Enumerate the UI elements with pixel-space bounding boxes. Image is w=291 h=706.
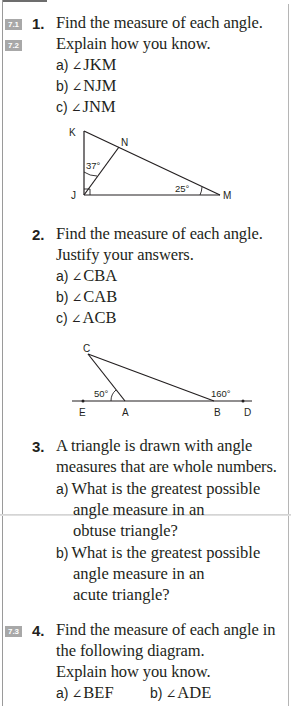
- angle-symbol: ∠: [71, 290, 82, 305]
- angle-name: NJM: [83, 76, 116, 95]
- part-label: c): [56, 310, 68, 326]
- question-text: Explain how you know.: [56, 662, 210, 682]
- sub-question-a: a)∠BEF: [56, 683, 114, 704]
- question-number: 4.: [32, 621, 45, 641]
- question-text: Justify your answers.: [56, 245, 194, 265]
- angle-name: JNM: [83, 97, 116, 116]
- sub-question-b: b)∠ADE: [150, 683, 211, 704]
- sub-question-a: a)∠JKM: [56, 55, 116, 76]
- sub-question-b: b)∠CAB: [56, 287, 117, 308]
- question-text: A triangle is drawn with angle: [56, 436, 252, 456]
- triangle-diagram-jkm: K N J M 37° 25°: [60, 120, 240, 200]
- vertex-label-k: K: [69, 127, 76, 138]
- question-text: Find the measure of each angle.: [56, 13, 263, 33]
- vertex-label-m: M: [223, 190, 231, 200]
- sub-question-b: b)What is the greatest possible: [56, 543, 260, 563]
- part-text-continued: angle measure in an: [73, 564, 204, 584]
- part-text: What is the greatest possible: [71, 543, 260, 562]
- angle-name: ADE: [177, 683, 211, 702]
- sub-question-a: a)What is the greatest possible: [56, 479, 260, 499]
- angle-name: BEF: [83, 683, 113, 702]
- part-label: b): [56, 289, 68, 305]
- vertex-label-c: C: [83, 343, 90, 354]
- question-number: 3.: [32, 437, 45, 457]
- part-label: a): [56, 481, 68, 497]
- question-number: 2.: [32, 225, 45, 245]
- angle-symbol: ∠: [71, 269, 82, 284]
- part-text: What is the greatest possible: [71, 479, 260, 498]
- part-label: a): [56, 268, 68, 284]
- triangle-diagram-abc: C E A B D 50° 160°: [60, 325, 260, 420]
- textbook-page: 7.1 7.2 1. Find the measure of each angl…: [0, 0, 291, 706]
- part-label: b): [56, 78, 68, 94]
- angle-label-50: 50°: [94, 388, 109, 399]
- angle-symbol: ∠: [71, 100, 82, 115]
- section-tag: 7.2: [5, 40, 22, 51]
- vertex-label-d: D: [244, 407, 251, 418]
- angle-name: CAB: [83, 287, 117, 306]
- part-label: a): [56, 685, 68, 701]
- vertex-label-e: E: [79, 407, 86, 418]
- question-text: the following diagram.: [56, 641, 205, 661]
- question-text: Find the measure of each angle.: [56, 224, 263, 244]
- part-text-continued: obtuse triangle?: [73, 521, 178, 541]
- part-label: a): [56, 57, 68, 73]
- part-text-continued: acute triangle?: [73, 585, 170, 605]
- angle-symbol: ∠: [71, 58, 82, 73]
- vertex-label-j: J: [71, 190, 76, 200]
- question-text: measures that are whole numbers.: [56, 457, 277, 477]
- section-tag: 7.1: [5, 19, 22, 30]
- sub-question-b: b)∠NJM: [56, 76, 116, 97]
- page-border-left: [2, 0, 3, 706]
- angle-symbol: ∠: [71, 686, 82, 701]
- angle-name: CBA: [83, 266, 117, 285]
- vertex-label-a: A: [122, 407, 129, 418]
- sub-question-c: c)∠JNM: [56, 97, 116, 118]
- vertex-label-n: N: [121, 137, 128, 148]
- part-label: c): [56, 99, 68, 115]
- angle-symbol: ∠: [71, 311, 82, 326]
- angle-symbol: ∠: [71, 79, 82, 94]
- angle-name: JKM: [83, 55, 116, 74]
- angle-label-37: 37°: [86, 160, 101, 171]
- question-text: Explain how you know.: [56, 34, 210, 54]
- part-label: b): [56, 545, 68, 561]
- vertex-label-b: B: [214, 407, 221, 418]
- part-label: b): [150, 685, 162, 701]
- part-text-continued: angle measure in an: [73, 500, 204, 520]
- section-tag: 7.3: [5, 626, 22, 637]
- question-number: 1.: [32, 14, 45, 34]
- angle-label-160: 160°: [211, 388, 231, 399]
- angle-label-25: 25°: [175, 183, 190, 194]
- question-text: Find the measure of each angle in: [56, 620, 275, 640]
- top-rule: [3, 0, 47, 2]
- sub-question-a: a)∠CBA: [56, 266, 117, 287]
- angle-symbol: ∠: [165, 686, 176, 701]
- page-border-right: [288, 4, 289, 706]
